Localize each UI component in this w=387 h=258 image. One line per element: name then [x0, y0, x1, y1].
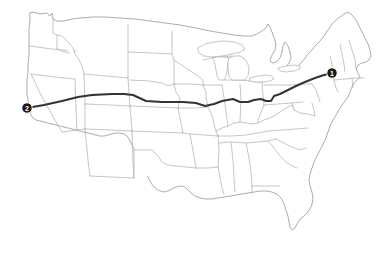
- marker-2-circle[interactable]: [22, 103, 32, 113]
- us-map-svg: 1 2: [0, 0, 387, 258]
- route-map-container: 1 2: [0, 0, 387, 258]
- country-outline-group: [27, 12, 371, 230]
- marker-1-group[interactable]: 1: [327, 68, 337, 78]
- marker-2-group[interactable]: 2: [22, 103, 32, 113]
- marker-1-circle[interactable]: [327, 68, 337, 78]
- border-az-nm: [85, 129, 90, 176]
- border-nm-south: [90, 176, 134, 178]
- us-mainland-outline: [27, 12, 371, 230]
